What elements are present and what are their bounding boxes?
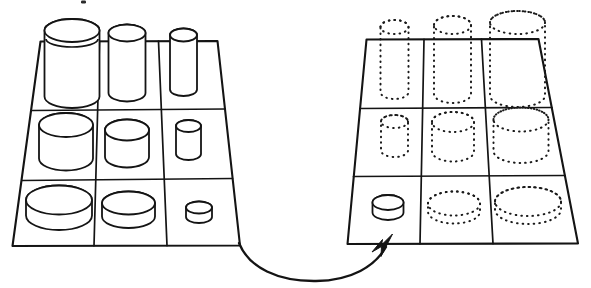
target-placeholder-r2c1[interactable] xyxy=(381,115,408,157)
target-grid-col-divider-1 xyxy=(420,39,424,243)
target-placeholder-r1c2[interactable] xyxy=(434,16,471,103)
figure-root: Cylinder sorting task: filled board tran… xyxy=(0,0,591,288)
target-grid[interactable] xyxy=(348,11,579,244)
figure-canvas xyxy=(0,0,591,288)
transfer-arrow[interactable] xyxy=(239,234,393,281)
source-grid[interactable] xyxy=(13,19,241,246)
target-cylinder-r3c1[interactable] xyxy=(373,195,404,220)
target-placeholder-r2c3[interactable] xyxy=(494,108,549,164)
target-placeholder-r3c2[interactable] xyxy=(428,192,480,224)
transfer-arrow-curve xyxy=(239,243,386,281)
target-placeholder-r2c2[interactable] xyxy=(432,112,474,162)
source-cylinder-r1c1[interactable] xyxy=(44,19,99,108)
source-grid-col-divider-2 xyxy=(159,41,168,246)
source-cylinder-r3c3[interactable] xyxy=(186,202,212,224)
source-cylinder-r3c1[interactable] xyxy=(26,186,92,231)
source-cylinder-r2c2[interactable] xyxy=(105,120,149,168)
transfer-arrow-head xyxy=(372,234,393,257)
scan-artifact-speck xyxy=(81,1,86,4)
target-placeholder-r1c1[interactable] xyxy=(381,20,409,99)
target-placeholder-r1c3[interactable] xyxy=(490,11,545,107)
source-cylinder-r3c2[interactable] xyxy=(102,192,155,229)
source-cylinder-r1c3[interactable] xyxy=(170,29,197,97)
target-grid-row-divider-2 xyxy=(354,176,566,177)
target-placeholder-r3c3[interactable] xyxy=(495,187,561,224)
source-cylinder-r1c2[interactable] xyxy=(109,25,146,102)
source-cylinder-r2c1[interactable] xyxy=(39,113,93,171)
source-grid-row-divider-2 xyxy=(22,179,233,181)
source-grid-row-divider-1 xyxy=(33,109,226,111)
source-cylinder-r2c3[interactable] xyxy=(176,120,201,160)
target-grid-col-divider-2 xyxy=(482,39,494,243)
